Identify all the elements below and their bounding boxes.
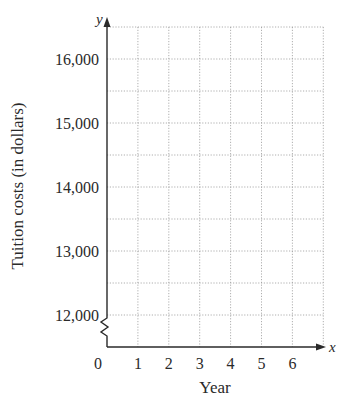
x-tick-label: 5: [258, 355, 266, 372]
x-tick-label: 3: [196, 355, 204, 372]
x-tick-label: 1: [134, 355, 142, 372]
y-axis-title: Tuition costs (in dollars): [8, 102, 27, 269]
x-tick-label: 0: [94, 355, 102, 372]
x-tick-label: 2: [165, 355, 173, 372]
y-tick-labels: 12,00013,00014,00015,00016,000: [55, 51, 99, 324]
y-tick-label: 15,000: [55, 115, 99, 132]
x-tick-label: 6: [288, 355, 296, 372]
y-tick-label: 13,000: [55, 243, 99, 260]
y-tick-label: 16,000: [55, 51, 99, 68]
chart-canvas: 0123456 12,00013,00014,00015,00016,000 y…: [0, 0, 351, 404]
tuition-cost-chart: 0123456 12,00013,00014,00015,00016,000 y…: [0, 0, 351, 404]
x-tick-label: 4: [227, 355, 235, 372]
grid-lines: [107, 27, 323, 347]
y-axis-arrow-icon: [104, 17, 111, 27]
x-axis-variable: x: [328, 339, 336, 355]
x-axis-title: Year: [199, 378, 231, 397]
y-axis-line: [101, 24, 108, 347]
x-tick-labels: 0123456: [94, 355, 296, 372]
y-axis-variable: y: [94, 11, 103, 27]
y-tick-label: 14,000: [55, 179, 99, 196]
x-axis-arrow-icon: [316, 344, 326, 351]
y-tick-label: 12,000: [55, 307, 99, 324]
